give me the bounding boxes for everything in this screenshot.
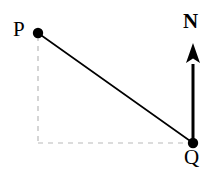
north-label: N — [183, 11, 198, 32]
point-q-label: Q — [184, 147, 199, 168]
point-p-marker — [33, 28, 43, 38]
bearing-diagram-figure: P Q N — [0, 0, 220, 171]
point-p-label: P — [13, 19, 25, 40]
